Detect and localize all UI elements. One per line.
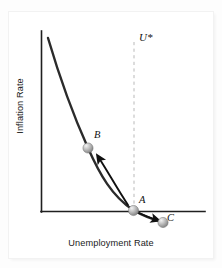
point-label-c: C	[167, 212, 174, 223]
y-axis-title-wrapper: Inflation Rate	[0, 0, 40, 212]
phillips-curve-figure: U* B A C Inflation Rate Unemployment Rat…	[0, 0, 222, 268]
point-label-a: A	[139, 194, 145, 205]
arrow-a-to-b	[99, 158, 128, 205]
y-axis-title: Inflation Rate	[15, 78, 25, 134]
data-point-a[interactable]	[128, 205, 138, 215]
phillips-curve-line	[48, 38, 163, 222]
point-label-b: B	[94, 129, 100, 140]
x-axis-title: Unemployment Rate	[0, 238, 222, 248]
natural-rate-label: U*	[139, 31, 152, 43]
data-point-b[interactable]	[83, 143, 93, 153]
arrow-a-to-c	[139, 213, 156, 220]
